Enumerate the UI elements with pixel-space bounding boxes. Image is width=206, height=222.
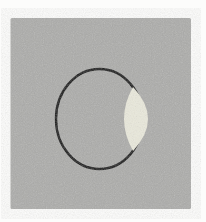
scanned-figure [0,0,206,222]
grain-overlay [11,18,192,209]
figure-svg [0,0,206,222]
